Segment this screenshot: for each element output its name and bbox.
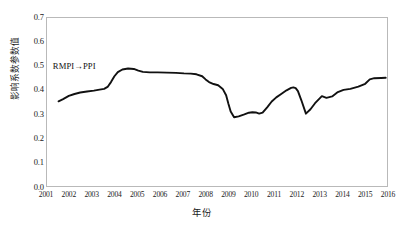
line-series-canvas bbox=[46, 17, 388, 187]
series-line-rmpi-ppi bbox=[59, 68, 386, 117]
y-tick-label: 0.4 bbox=[22, 85, 44, 94]
x-tick-label: 2016 bbox=[375, 191, 401, 199]
y-tick-label: 0.7 bbox=[22, 13, 44, 22]
y-tick-label: 0.3 bbox=[22, 110, 44, 119]
y-tick-label: 0.5 bbox=[22, 61, 44, 70]
x-axis-title: 年份 bbox=[0, 205, 403, 219]
y-tick-label: 0.1 bbox=[22, 158, 44, 167]
y-tick-label: 0.6 bbox=[22, 37, 44, 46]
chart-figure: 0.00.10.20.30.40.50.60.7 200120022003200… bbox=[0, 0, 403, 228]
series-annotation-label: RMPI→PPI bbox=[53, 61, 96, 71]
y-axis-title: 影响系数参数值 bbox=[8, 23, 20, 113]
y-tick-label: 0.2 bbox=[22, 134, 44, 143]
x-axis-tick-labels: 2001200220032004200520062007200820092010… bbox=[0, 191, 403, 205]
